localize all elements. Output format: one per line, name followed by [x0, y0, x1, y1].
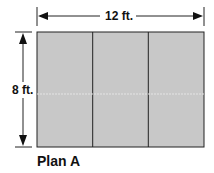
width-label: 12 ft. — [103, 9, 135, 23]
arrow-right-icon — [193, 12, 203, 20]
height-label: 8 ft. — [12, 83, 33, 97]
arrow-up-icon — [19, 33, 27, 44]
arrow-left-icon — [38, 12, 48, 20]
floor-plan-rectangle — [37, 32, 204, 147]
arrow-down-icon — [19, 135, 27, 146]
plan-title: Plan A — [37, 153, 80, 169]
